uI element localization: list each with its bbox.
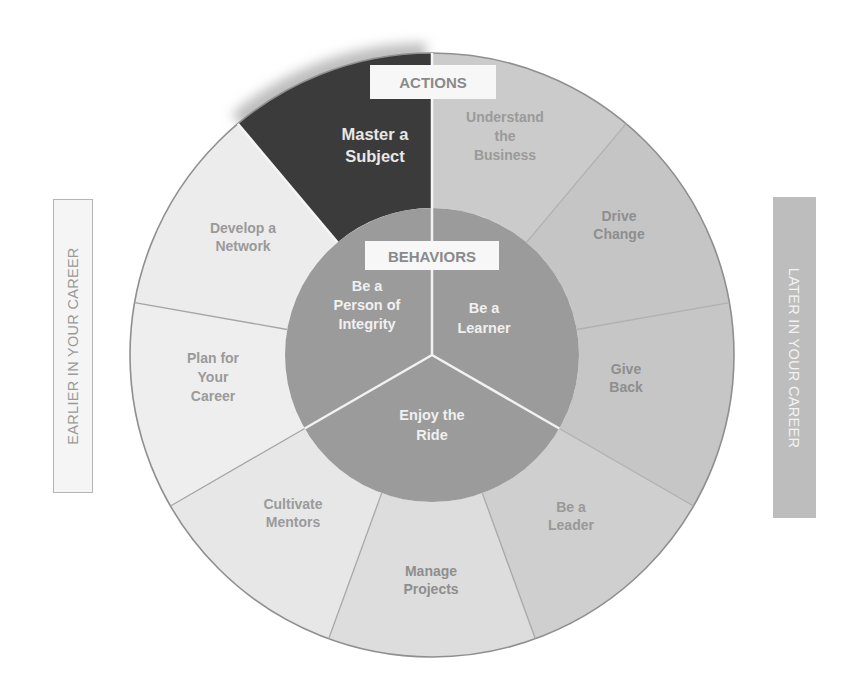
label-line: the xyxy=(495,128,516,144)
label-line: Manage xyxy=(405,563,457,579)
label-line: Career xyxy=(191,388,236,404)
label-line: Be a xyxy=(469,300,501,316)
label-line: Back xyxy=(609,379,643,395)
label-line: Integrity xyxy=(338,316,395,332)
label-line: Drive xyxy=(601,208,636,224)
label-line: Subject xyxy=(345,147,405,165)
label-line: Person of xyxy=(334,297,401,313)
label-line: Master a xyxy=(342,125,410,143)
career-wheel-diagram: EARLIER IN YOUR CAREER LATER IN YOUR CAR… xyxy=(0,0,865,696)
label-line: Cultivate xyxy=(263,496,322,512)
label-line: Projects xyxy=(403,581,458,597)
label-line: Be a xyxy=(352,278,384,294)
label-line: Learner xyxy=(457,320,511,336)
label-line: Leader xyxy=(548,517,594,533)
label-line: Change xyxy=(593,226,645,242)
label-line: Understand xyxy=(466,109,544,125)
label-line: Your xyxy=(198,369,229,385)
label-line: Develop a xyxy=(210,220,276,236)
behaviors-label-box: BEHAVIORS xyxy=(365,241,499,270)
label-line: Business xyxy=(474,147,536,163)
label-line: Be a xyxy=(556,499,586,515)
label-line: Give xyxy=(611,361,642,377)
label-line: Ride xyxy=(416,427,447,443)
label-line: Plan for xyxy=(187,350,240,366)
actions-label: ACTIONS xyxy=(399,74,467,91)
actions-label-box: ACTIONS xyxy=(370,65,496,99)
label-line: Enjoy the xyxy=(399,407,464,423)
behaviors-label: BEHAVIORS xyxy=(388,248,476,265)
label-line: Mentors xyxy=(266,514,321,530)
wheel-svg: ACTIONS BEHAVIORS Master aSubjectUnderst… xyxy=(0,0,865,696)
label-line: Network xyxy=(215,238,270,254)
